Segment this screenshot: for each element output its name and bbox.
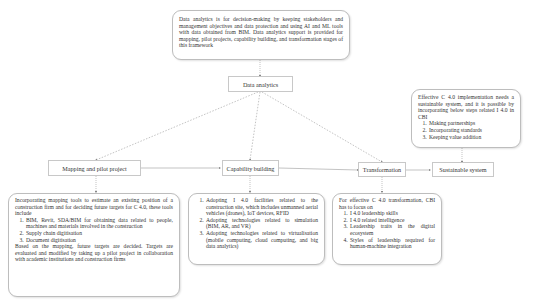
list-item: I 4.0 leadership skills	[349, 210, 435, 217]
list-item: Making partnerships	[428, 120, 514, 127]
node-transformation: Transformation	[358, 162, 406, 177]
mapping-description: Incorporating mapping tools to estimate …	[8, 193, 180, 297]
sustainable-description: Effective C 4.0 implementation needs a s…	[411, 89, 521, 148]
list-item: Styles of leadership required for human-…	[349, 237, 435, 250]
description-intro: Effective C 4.0 implementation needs a s…	[418, 94, 514, 120]
description-intro: For effective C 4.0 transformation, CBI …	[339, 197, 435, 210]
list-item: I 4.0 related intelligence	[349, 217, 435, 224]
description-intro: Incorporating mapping tools to estimate …	[15, 197, 173, 217]
data-analytics-description: Data analytics is for decision-making by…	[172, 10, 350, 60]
list-item: Adopting I 4.0 facilities related to the…	[205, 197, 318, 217]
node-mapping-pilot-project: Mapping and pilot project	[48, 160, 141, 176]
transformation-description: For effective C 4.0 transformation, CBI …	[332, 193, 442, 265]
node-data-analytics: Data analytics	[228, 76, 293, 92]
node-label: Mapping and pilot project	[62, 165, 126, 172]
capability-description: Adopting I 4.0 facilities related to the…	[188, 193, 325, 265]
list-item: BIM, Revit, SDA/BIM for obtaining data r…	[25, 217, 173, 230]
node-label: Sustainable system	[439, 166, 486, 173]
list-item: Keeping value addition	[428, 134, 514, 141]
description-outro: Based on the mapping, future targets are…	[15, 243, 173, 263]
list-item: Document digitisation	[25, 237, 173, 244]
list-item: Incorporating standards	[428, 127, 514, 134]
list-item: Adopting technologies related to simulat…	[205, 217, 318, 230]
list-item: Supply chain digitisation	[25, 230, 173, 237]
description-text: Data analytics is for decision-making by…	[179, 16, 343, 48]
node-label: Transformation	[363, 166, 401, 173]
node-sustainable-system: Sustainable system	[432, 162, 494, 177]
list-item: Leadership traits in the digital ecosyst…	[349, 223, 435, 236]
node-capability-building: Capability building	[222, 160, 279, 176]
node-label: Capability building	[227, 165, 275, 172]
list-item: Adopting technologies related to virtual…	[205, 230, 318, 250]
node-label: Data analytics	[243, 81, 278, 88]
